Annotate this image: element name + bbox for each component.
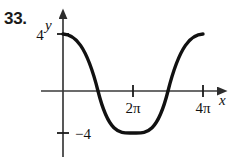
x-axis-label: x: [218, 92, 226, 108]
x-tick-label-2pi: 2π: [125, 100, 141, 116]
y-axis-label: y: [43, 17, 52, 33]
x-tick-label-4pi: 4π: [195, 100, 211, 116]
figure-panel: 33. y x 4 −4 2π 4π: [0, 0, 234, 164]
y-tick-label-minus-4: −4: [75, 126, 91, 142]
cosine-graph-figure: y x 4 −4 2π 4π: [0, 0, 234, 164]
curve-path: [63, 34, 203, 133]
y-tick-label-4: 4: [36, 27, 44, 43]
